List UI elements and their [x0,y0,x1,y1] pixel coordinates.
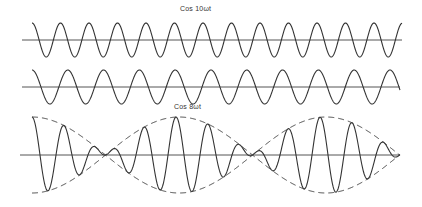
beat-frequency-diagram [0,0,422,207]
